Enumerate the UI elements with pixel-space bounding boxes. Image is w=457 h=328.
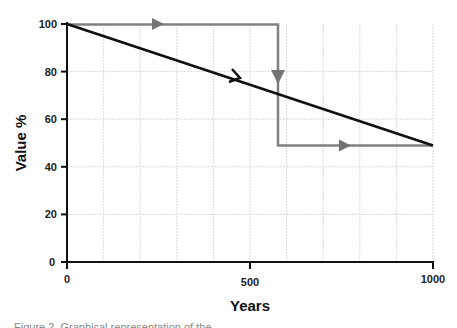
y-tick-20: 20 (45, 208, 57, 220)
y-tick-0: 0 (49, 256, 55, 268)
x-tick-1000: 1000 (421, 273, 445, 285)
arrow-right-icon (152, 18, 164, 30)
y-tick-labels: 100 80 60 40 20 0 (39, 18, 57, 268)
arrow-right-icon (339, 140, 351, 152)
x-tick-labels: 0 500 1000 (64, 273, 445, 288)
figure-caption: Figure 2. Graphical representation of th… (14, 318, 212, 328)
y-tick-40: 40 (45, 161, 57, 173)
y-axis-title: Value % (12, 115, 29, 172)
arrow-down-icon (271, 70, 285, 84)
grid (67, 24, 433, 262)
x-tick-500: 500 (241, 276, 259, 288)
y-tick-60: 60 (45, 113, 57, 125)
x-axis-title: Years (230, 297, 270, 314)
chart: 100 80 60 40 20 0 0 500 1000 Years Value… (0, 0, 457, 328)
y-tick-80: 80 (45, 66, 57, 78)
y-tick-100: 100 (39, 18, 57, 30)
x-tick-0: 0 (64, 273, 70, 285)
